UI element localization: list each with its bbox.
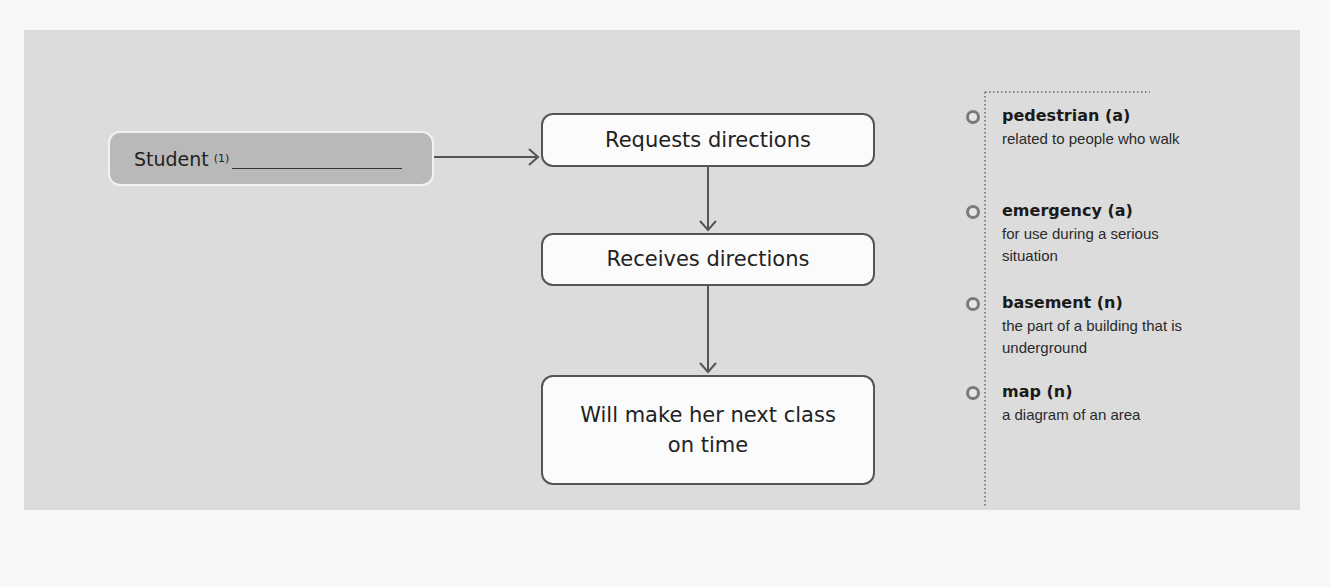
glossary-term: pedestrian (a) [1002, 104, 1182, 128]
flow-node-label: Requests directions [605, 125, 811, 155]
glossary-definition: a diagram of an area [1002, 404, 1192, 426]
footnote-marker: (1) [214, 152, 230, 165]
flow-node-receives-directions: Receives directions [541, 233, 875, 286]
glossary-item-basement: basement (n) the part of a building that… [955, 291, 1192, 359]
bullet-circle-icon [966, 110, 980, 124]
glossary-definition: related to people who walk [1002, 128, 1182, 150]
bullet-circle-icon [966, 297, 980, 311]
glossary-term: basement (n) [1002, 291, 1192, 315]
glossary-term: emergency (a) [1002, 199, 1187, 223]
bullet-circle-icon [966, 386, 980, 400]
flow-node-label: Will make her next class on time [573, 400, 843, 461]
glossary-item-pedestrian: pedestrian (a) related to people who wal… [955, 104, 1182, 150]
glossary-term: map (n) [1002, 380, 1192, 404]
glossary-item-map: map (n) a diagram of an area [955, 380, 1192, 426]
answer-blank[interactable] [232, 148, 402, 169]
start-node-label: Student [134, 148, 209, 170]
start-node-student: Student (1) [108, 131, 434, 186]
bullet-circle-icon [966, 205, 980, 219]
flow-node-requests-directions: Requests directions [541, 113, 875, 167]
glossary-definition: the part of a building that is undergrou… [1002, 315, 1192, 359]
glossary-item-emergency: emergency (a) for use during a serious s… [955, 199, 1187, 267]
glossary-definition: for use during a serious situation [1002, 223, 1187, 267]
flow-node-label: Receives directions [607, 244, 810, 274]
flow-node-outcome: Will make her next class on time [541, 375, 875, 485]
